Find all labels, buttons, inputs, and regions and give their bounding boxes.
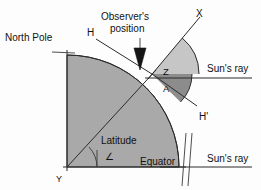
label-horizon-h: H <box>87 27 94 38</box>
label-north-pole: North Pole <box>5 32 53 43</box>
north-pole-tick <box>52 52 75 53</box>
label-center-y: Y <box>56 174 62 184</box>
label-observer-position-line2: position <box>110 23 144 34</box>
label-horizon-h-prime: H' <box>199 111 208 122</box>
label-zenith-angle-z: Z <box>163 66 169 77</box>
diagram-canvas: North Pole Observer's position H H' X Z … <box>0 0 261 190</box>
label-zenith-x: X <box>196 8 203 19</box>
equator-reference-line-1 <box>182 133 186 186</box>
observer-arrow-pointer <box>134 48 146 70</box>
earth-sun-geometry-diagram: North Pole Observer's position H H' X Z … <box>0 0 261 190</box>
label-suns-ray-top: Sun's ray <box>207 63 248 74</box>
label-altitude-angle-a: A <box>163 83 170 94</box>
label-observer-position-line1: Observer's <box>101 11 149 22</box>
label-suns-ray-bottom: Sun's ray <box>207 153 248 164</box>
zenith-angle-wedge <box>152 38 199 74</box>
label-angle-symbol: ∠ <box>105 151 114 162</box>
label-latitude: Latitude <box>101 135 137 146</box>
equator-reference-line-2 <box>188 133 192 186</box>
label-equator: Equator <box>140 156 176 167</box>
